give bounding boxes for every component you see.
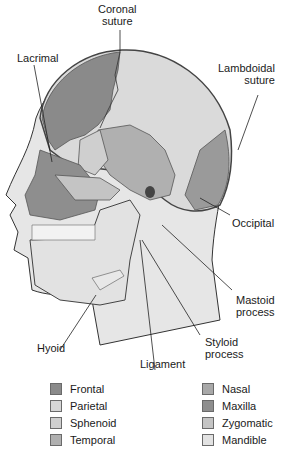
swatch-zygomatic xyxy=(202,417,214,429)
lacrimal-label: Lacrimal xyxy=(17,52,59,64)
swatch-sphenoid xyxy=(50,417,62,429)
hyoid-label: Hyoid xyxy=(37,342,65,354)
legend-item-parietal: Parietal xyxy=(50,397,117,414)
legend-item-nasal: Nasal xyxy=(202,380,273,397)
swatch-temporal xyxy=(50,434,62,446)
styloid-process-label: Styloidprocess xyxy=(205,336,244,360)
legend-item-maxilla: Maxilla xyxy=(202,397,273,414)
ligament-label: Ligament xyxy=(140,358,185,370)
swatch-mandible xyxy=(202,434,214,446)
legend-right: Nasal Maxilla Zygomatic Mandible xyxy=(202,380,273,448)
swatch-nasal xyxy=(202,383,214,395)
lambdoidal-suture-label: Lambdoidalsuture xyxy=(218,62,275,86)
swatch-parietal xyxy=(50,400,62,412)
legend-item-temporal: Temporal xyxy=(50,431,117,448)
legend-left: Frontal Parietal Sphenoid Temporal xyxy=(50,380,117,448)
swatch-frontal xyxy=(50,383,62,395)
legend-item-frontal: Frontal xyxy=(50,380,117,397)
legend-item-sphenoid: Sphenoid xyxy=(50,414,117,431)
occipital-label: Occipital xyxy=(232,217,274,229)
legend-item-mandible: Mandible xyxy=(202,431,273,448)
coronal-suture-label: Coronalsuture xyxy=(98,3,137,27)
swatch-maxilla xyxy=(202,400,214,412)
mastoid-process-label: Mastoidprocess xyxy=(236,294,275,318)
legend-item-zygomatic: Zygomatic xyxy=(202,414,273,431)
